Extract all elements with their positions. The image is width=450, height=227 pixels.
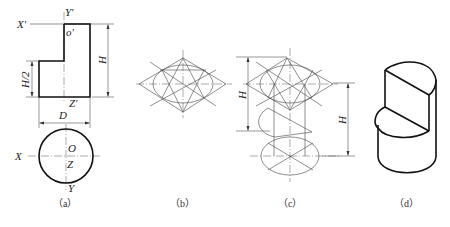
technical-drawing: X' Y' o' H H/2 Z' D X O Z Y （a） （b） — [0, 0, 450, 227]
label-z-prime: Z' — [69, 97, 78, 109]
label-y: Y — [68, 182, 76, 194]
label-c-height-left: H — [236, 90, 248, 100]
label-height: H — [96, 55, 108, 65]
caption-c: （c） — [278, 198, 302, 209]
panel-d-isometric-solid — [375, 62, 436, 173]
label-x: X — [14, 150, 23, 162]
caption-a: （a） — [53, 198, 77, 209]
caption-d: （d） — [394, 198, 419, 209]
label-y-prime: Y' — [65, 6, 74, 18]
panel-a-top-view: X O Z Y — [14, 124, 100, 194]
panel-c-construction: H H — [236, 48, 355, 182]
caption-b: （b） — [170, 198, 195, 209]
panel-a-front-view: X' Y' o' H H/2 Z' D — [16, 6, 114, 128]
label-half-height: H/2 — [19, 71, 31, 89]
label-z: Z — [67, 158, 74, 170]
label-diameter: D — [58, 109, 67, 121]
panel-b-isometric-ellipse-construction — [136, 50, 232, 118]
label-x-prime: X' — [16, 18, 27, 30]
label-o: O — [68, 142, 76, 154]
label-c-height-right: H — [336, 115, 348, 125]
label-o-prime: o' — [66, 26, 75, 38]
drawing-canvas: X' Y' o' H H/2 Z' D X O Z Y （a） （b） — [0, 0, 450, 227]
